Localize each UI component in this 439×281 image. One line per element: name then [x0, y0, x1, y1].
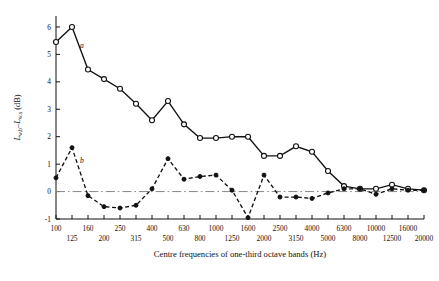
data-point-b — [358, 187, 362, 191]
data-point-a — [294, 144, 299, 149]
y-tick-label: -1 — [45, 215, 51, 224]
data-point-a — [166, 99, 171, 104]
x-tick-label-upper: 4000 — [305, 224, 320, 233]
data-point-b — [166, 157, 170, 161]
series-group — [54, 24, 427, 219]
data-point-a — [54, 40, 59, 45]
y-tick-label: 6 — [47, 23, 51, 32]
data-point-a — [86, 67, 91, 72]
x-tick-label-lower: 20000 — [415, 234, 434, 243]
data-point-a — [198, 136, 203, 141]
x-tick-label-lower: 125 — [66, 234, 77, 243]
series-line-a — [56, 27, 424, 190]
x-tick-label-upper: 400 — [146, 224, 157, 233]
x-tick-label-lower: 315 — [130, 234, 141, 243]
x-tick-label-upper: 630 — [178, 224, 189, 233]
svg-text:Lw,b–Lw,s (dB): Lw,b–Lw,s (dB) — [13, 94, 23, 141]
data-point-b — [230, 188, 234, 192]
data-point-b — [214, 173, 218, 177]
data-point-b — [102, 205, 106, 209]
data-point-b — [246, 216, 250, 220]
data-point-a — [70, 24, 75, 29]
x-tick-label-upper: 1000 — [209, 224, 224, 233]
data-point-b — [374, 192, 378, 196]
y-tick-label: 4 — [47, 77, 51, 86]
data-point-a — [214, 136, 219, 141]
x-tick-label-upper: 10000 — [367, 224, 386, 233]
x-tick-label-upper: 160 — [82, 224, 93, 233]
data-point-b — [422, 188, 426, 192]
data-point-a — [118, 86, 123, 91]
data-point-a — [102, 77, 107, 82]
data-point-a — [182, 122, 187, 127]
data-point-b — [294, 195, 298, 199]
x-tick-label-lower: 200 — [98, 234, 109, 243]
data-point-b — [262, 173, 266, 177]
x-tick-label-lower: 1250 — [225, 234, 240, 243]
data-point-a — [278, 153, 283, 158]
y-tick-label: 2 — [47, 132, 51, 141]
x-tick-label-lower: 800 — [194, 234, 205, 243]
line-chart: -101234561001602504006301000160025004000… — [0, 0, 439, 281]
curve-label-a: a — [80, 41, 84, 50]
y-tick-label: 1 — [47, 160, 51, 169]
data-point-a — [150, 118, 155, 123]
data-point-b — [54, 176, 58, 180]
x-tick-label-lower: 8000 — [353, 234, 368, 243]
data-point-b — [70, 146, 74, 150]
x-tick-label-upper: 100 — [50, 224, 61, 233]
data-point-b — [182, 177, 186, 181]
data-point-a — [326, 168, 331, 173]
data-point-a — [134, 101, 139, 106]
x-tick-label-upper: 250 — [114, 224, 125, 233]
data-point-b — [278, 195, 282, 199]
x-tick-label-lower: 500 — [162, 234, 173, 243]
data-point-b — [406, 188, 410, 192]
x-axis-title: Centre frequencies of one-third octave b… — [154, 249, 326, 259]
y-tick-label: 0 — [47, 187, 51, 196]
x-tick-label-upper: 1600 — [241, 224, 256, 233]
data-point-b — [310, 196, 314, 200]
data-point-b — [342, 187, 346, 191]
data-point-b — [150, 187, 154, 191]
x-tick-label-lower: 5000 — [321, 234, 336, 243]
x-tick-label-upper: 16000 — [399, 224, 418, 233]
y-tick-label: 3 — [47, 105, 51, 114]
data-point-b — [198, 174, 202, 178]
x-tick-label-lower: 2000 — [257, 234, 272, 243]
data-point-a — [246, 134, 251, 139]
data-point-b — [390, 187, 394, 191]
tick-labels-group: -101234561001602504006301000160025004000… — [45, 23, 434, 243]
x-tick-label-upper: 6300 — [337, 224, 352, 233]
data-point-b — [326, 191, 330, 195]
y-axis-title: Lw,b–Lw,s (dB) — [13, 94, 23, 141]
data-point-a — [262, 153, 267, 158]
data-point-a — [310, 149, 315, 154]
x-tick-label-lower: 3150 — [289, 234, 304, 243]
x-tick-label-lower: 12500 — [383, 234, 402, 243]
figure-container: -101234561001602504006301000160025004000… — [0, 0, 439, 281]
y-tick-label: 5 — [47, 50, 51, 59]
data-point-b — [118, 206, 122, 210]
data-point-b — [86, 194, 90, 198]
x-tick-label-upper: 2500 — [273, 224, 288, 233]
data-point-a — [230, 134, 235, 139]
series-line-b — [56, 148, 424, 218]
data-point-b — [134, 203, 138, 207]
curve-label-b: b — [80, 156, 84, 165]
data-point-a — [374, 186, 379, 191]
